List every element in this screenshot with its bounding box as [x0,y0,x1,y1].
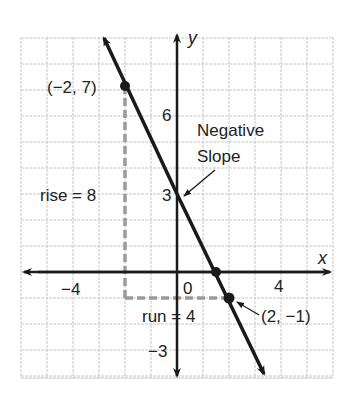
point-b-pointer [237,302,259,315]
tick-neg3: −3 [148,342,167,361]
point-2-neg1 [224,293,235,304]
tick-0: 0 [183,279,192,298]
rise-label: rise = 8 [40,186,96,205]
point-b-label: (2, −1) [261,307,311,326]
negative-slope-pointer [184,170,215,196]
tick-neg4: −4 [61,280,80,299]
x-axis-label: x [317,248,328,268]
run-label: run = 4 [142,307,195,326]
negative-slope-label-line2: Slope [197,147,240,166]
slope-graph: y x −4 0 4 6 3 −3 (−2, 7) (2, −1) Negati… [0,0,357,398]
point-neg2-7 [120,81,130,91]
tick-3: 3 [162,186,171,205]
tick-4: 4 [274,277,283,296]
point-a-label: (−2, 7) [47,78,97,97]
negative-slope-label-line1: Negative [197,121,264,140]
y-axis-label: y [186,28,198,48]
tick-6: 6 [162,106,171,125]
point-x-intercept [211,267,221,277]
